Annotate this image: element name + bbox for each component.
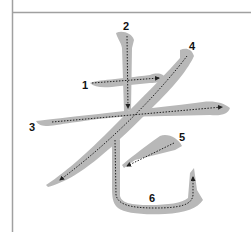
character-strokes bbox=[36, 32, 230, 214]
stroke-6-label: 6 bbox=[149, 192, 155, 204]
stroke-3-label: 3 bbox=[29, 121, 35, 133]
stroke-5-shape bbox=[122, 135, 182, 168]
stroke-1-label: 1 bbox=[82, 79, 88, 91]
stroke-4-label: 4 bbox=[189, 40, 196, 52]
stroke-2-shape bbox=[116, 32, 134, 112]
stroke-order-diagram: 1 2 3 4 5 6 bbox=[0, 0, 251, 232]
stroke-2-label: 2 bbox=[123, 20, 129, 32]
stroke-5-label: 5 bbox=[179, 131, 185, 143]
